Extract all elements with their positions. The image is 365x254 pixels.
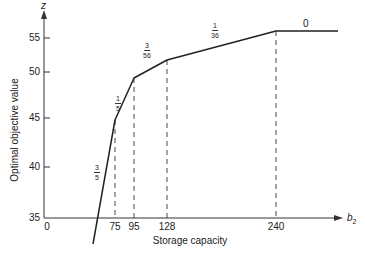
- x-axis-symbol: b2: [347, 212, 356, 225]
- objective-curve: [93, 31, 338, 244]
- y-tick-label: 35: [18, 213, 40, 223]
- y-tick-label: 45: [18, 113, 40, 123]
- y-tick-label: 55: [18, 33, 40, 43]
- y-axis-arrow-icon: [41, 10, 47, 19]
- x-tick-label: 95: [128, 222, 139, 232]
- x-tick-label: 128: [159, 222, 176, 232]
- y-axis-symbol: z: [41, 0, 46, 11]
- slope-annotation: 3 5: [94, 164, 100, 181]
- x-tick-label: 240: [268, 222, 285, 232]
- y-ticks: [44, 38, 50, 167]
- y-tick-label: 50: [18, 67, 40, 77]
- y-axis-title: Optimal objective value: [9, 78, 20, 181]
- y-tick-label: 40: [18, 162, 40, 172]
- slope-annotation: 3 56: [143, 42, 151, 59]
- slope-annotation-zero: 0: [303, 19, 309, 29]
- chart-canvas: [0, 0, 365, 254]
- x-axis-title: Storage capacity: [153, 235, 228, 246]
- slope-annotation: 1 36: [211, 22, 219, 39]
- breakpoint-guides: [115, 31, 276, 218]
- slope-annotation: 1 5: [115, 95, 121, 112]
- x-axis-arrow-icon: [334, 215, 343, 221]
- x-tick-label: 0: [44, 222, 50, 232]
- x-tick-label: 75: [109, 222, 120, 232]
